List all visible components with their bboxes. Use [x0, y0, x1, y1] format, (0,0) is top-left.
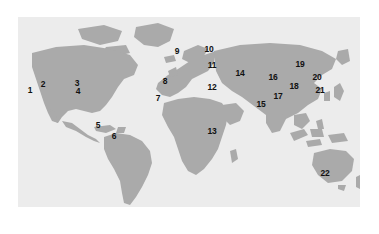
world-map-graphic: [18, 17, 360, 207]
marker-17[interactable]: 17: [273, 92, 282, 101]
marker-1[interactable]: 1: [28, 86, 33, 95]
marker-4[interactable]: 4: [76, 87, 81, 96]
land-new-zealand: [356, 175, 360, 189]
marker-15[interactable]: 15: [256, 100, 265, 109]
marker-13[interactable]: 13: [207, 127, 216, 136]
marker-12[interactable]: 12: [207, 83, 216, 92]
marker-6[interactable]: 6: [112, 132, 117, 141]
marker-14[interactable]: 14: [235, 69, 244, 78]
marker-9[interactable]: 9: [175, 47, 180, 56]
marker-20[interactable]: 20: [312, 73, 321, 82]
world-map-figure: 1 2 3 4 5 6 7 8 9 10 11 12 13 14 15 16 1…: [0, 0, 379, 234]
marker-5[interactable]: 5: [96, 121, 101, 130]
marker-10[interactable]: 10: [204, 45, 213, 54]
marker-19[interactable]: 19: [295, 60, 304, 69]
marker-7[interactable]: 7: [156, 94, 161, 103]
marker-11[interactable]: 11: [208, 61, 217, 70]
marker-21[interactable]: 21: [315, 86, 324, 95]
marker-22[interactable]: 22: [320, 169, 329, 178]
marker-2[interactable]: 2: [41, 80, 46, 89]
land-borneo: [310, 129, 324, 137]
marker-16[interactable]: 16: [268, 73, 277, 82]
marker-18[interactable]: 18: [289, 82, 298, 91]
marker-8[interactable]: 8: [163, 77, 168, 86]
map-panel[interactable]: 1 2 3 4 5 6 7 8 9 10 11 12 13 14 15 16 1…: [18, 17, 360, 207]
